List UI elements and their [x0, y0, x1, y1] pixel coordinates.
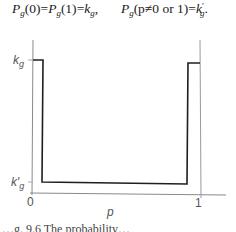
figure-caption: …g. 9.6 The probability… — [2, 222, 130, 232]
y-label-kg: kg — [13, 53, 24, 69]
p-one-guide-line — [200, 40, 201, 198]
y-axis — [32, 40, 33, 195]
x-tick-label-1: 1 — [195, 196, 202, 210]
step-curve — [33, 60, 200, 184]
y-label-kg-prime: k′g — [11, 175, 24, 191]
x-axis-label-p: p — [106, 205, 114, 219]
x-tick-label-0: 0 — [27, 195, 34, 209]
step-function-chart: kg k′g 0 1 p — [0, 0, 236, 232]
x-axis — [30, 193, 226, 195]
